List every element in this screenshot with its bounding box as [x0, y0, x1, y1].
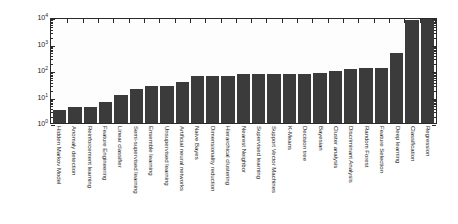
axis-tick-top	[129, 19, 130, 23]
x-tick-label: Classification	[410, 126, 416, 161]
x-tick-label: Unsupervised learning	[164, 126, 170, 186]
axis-tick-minor	[51, 27, 53, 28]
y-tick-label-0: 100	[22, 120, 48, 127]
bar-chart: Number of Entries 100101102103104 Hidden…	[0, 0, 458, 224]
axis-tick-top	[435, 19, 436, 23]
axis-tick-top	[374, 19, 375, 23]
axis-tick-minor	[51, 59, 53, 60]
axis-tick-top	[205, 19, 206, 23]
x-tick-label: Discriminant Analysis	[348, 126, 354, 183]
x-tick-slot: Hierarchical clustering	[221, 126, 234, 222]
axis-tick-minor	[51, 38, 53, 39]
bar	[267, 74, 280, 123]
axis-tick-top	[221, 19, 222, 23]
axis-tick-minor	[51, 101, 53, 102]
bar	[329, 71, 342, 123]
axis-tick-minor	[434, 100, 436, 101]
axis-tick-top	[282, 19, 283, 23]
axis-tick	[51, 19, 55, 20]
axis-tick-top	[420, 19, 421, 23]
axis-tick-minor	[434, 30, 436, 31]
axis-tick-top	[236, 19, 237, 23]
axis-tick	[51, 46, 55, 47]
axis-tick-minor	[434, 23, 436, 24]
axis-tick-top	[98, 19, 99, 23]
bar	[191, 76, 204, 123]
axis-tick-minor	[434, 101, 436, 102]
x-tick-slot: Decision tree	[299, 126, 312, 222]
x-tick-label: Hierarchical clustering	[225, 126, 231, 185]
axis-tick-minor	[51, 103, 53, 104]
x-tick-label: Nearest Neighbor	[241, 126, 247, 173]
bar	[130, 89, 143, 123]
x-tick-label: Bayesian	[318, 126, 324, 151]
bar	[99, 102, 112, 123]
x-tick-slot: Artificial neural networks	[175, 126, 188, 222]
x-tick-slot: Feature Selection	[376, 126, 389, 222]
axis-tick-minor	[51, 78, 53, 79]
axis-tick-minor	[434, 59, 436, 60]
axis-tick-top	[358, 19, 359, 23]
x-tick-slot: Classification	[406, 126, 419, 222]
x-tick-slot: Reinforcement learning	[83, 126, 96, 222]
axis-tick-minor	[51, 75, 53, 76]
axis-tick-top	[404, 19, 405, 23]
axis-tick-minor	[434, 48, 436, 49]
x-tick-label: Supervised learning	[256, 126, 262, 179]
axis-tick-minor	[51, 33, 53, 34]
axis-tick-minor	[434, 86, 436, 87]
x-tick-slot: Ensemble learning	[144, 126, 157, 222]
x-tick-label: Cluster analysis	[333, 126, 339, 168]
bar	[160, 86, 173, 123]
bar	[298, 74, 311, 123]
axis-tick-minor	[434, 50, 436, 51]
bar	[114, 95, 127, 123]
axis-tick-minor	[51, 25, 53, 26]
x-tick-slot: Hidden Markov Model	[52, 126, 65, 222]
axis-tick-top	[312, 19, 313, 23]
axis-tick-top	[190, 19, 191, 23]
axis-tick-minor	[434, 91, 436, 92]
axis-tick-minor	[51, 56, 53, 57]
x-tick-label: Random Forest	[364, 126, 370, 167]
axis-tick-minor	[434, 75, 436, 76]
axis-tick-minor	[51, 104, 53, 105]
axis-tick-minor	[434, 33, 436, 34]
x-tick-slot: Feature Engineering	[98, 126, 111, 222]
x-axis-tick-labels: Hidden Markov ModelAnomaly detectionRein…	[50, 126, 437, 222]
x-tick-slot: Deep learning	[391, 126, 404, 222]
axis-tick-top	[343, 19, 344, 23]
axis-tick-top	[266, 19, 267, 23]
axis-tick-minor	[51, 80, 53, 81]
axis-tick-minor	[51, 86, 53, 87]
axis-tick-minor	[51, 20, 53, 21]
axis-tick-minor	[51, 83, 53, 84]
axis-tick-top	[113, 19, 114, 23]
axis-tick-minor	[51, 50, 53, 51]
x-tick-label: Linear classifier	[117, 126, 123, 168]
axis-tick-top	[389, 19, 390, 23]
bar	[283, 74, 296, 123]
axis-tick-minor	[51, 51, 53, 52]
bar	[221, 76, 234, 123]
x-tick-slot: Supervised learning	[252, 126, 265, 222]
axis-tick-minor	[434, 83, 436, 84]
x-tick-label: Reinforcement learning	[87, 126, 93, 188]
x-tick-slot: Cluster analysis	[329, 126, 342, 222]
axis-tick-minor	[51, 112, 53, 113]
axis-tick-minor	[51, 30, 53, 31]
axis-tick-top	[67, 19, 68, 23]
axis-tick-minor	[51, 100, 53, 101]
axis-tick-minor	[434, 112, 436, 113]
y-tick-label-2: 102	[22, 67, 48, 74]
x-tick-slot: Dimensionality reduction	[206, 126, 219, 222]
x-tick-slot: Bayesian	[314, 126, 327, 222]
bar	[390, 53, 403, 123]
x-tick-slot: Nearest Neighbor	[237, 126, 250, 222]
bar	[237, 74, 250, 123]
x-tick-label: Dimensionality reduction	[210, 126, 216, 191]
axis-tick-minor	[51, 47, 53, 48]
axis-tick	[432, 99, 436, 100]
bar	[359, 68, 372, 123]
axis-tick-top	[297, 19, 298, 23]
